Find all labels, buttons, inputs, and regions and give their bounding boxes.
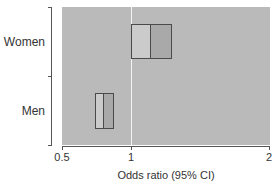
y-category-label-women: Women — [4, 35, 45, 49]
ci-lower-segment-women — [132, 25, 151, 58]
y-axis-tick — [48, 145, 52, 146]
plot-area — [62, 7, 270, 145]
x-axis-title: Odds ratio (95% CI) — [117, 169, 214, 181]
x-axis-line — [62, 146, 270, 147]
x-tick-label: 2 — [266, 151, 272, 163]
x-tick-label: 0.5 — [54, 151, 69, 163]
x-tick-label: 1 — [128, 151, 134, 163]
y-axis-tick — [48, 7, 52, 8]
ci-box-men — [95, 93, 114, 129]
y-category-label-men: Men — [22, 104, 45, 118]
ci-upper-segment-men — [104, 94, 113, 128]
x-axis-tick — [269, 146, 270, 150]
ci-upper-segment-women — [151, 25, 171, 58]
ci-lower-segment-men — [96, 94, 104, 128]
ci-box-women — [131, 24, 172, 59]
x-axis-tick — [62, 146, 63, 150]
y-axis-tick — [48, 76, 52, 77]
x-axis-tick — [131, 146, 132, 150]
